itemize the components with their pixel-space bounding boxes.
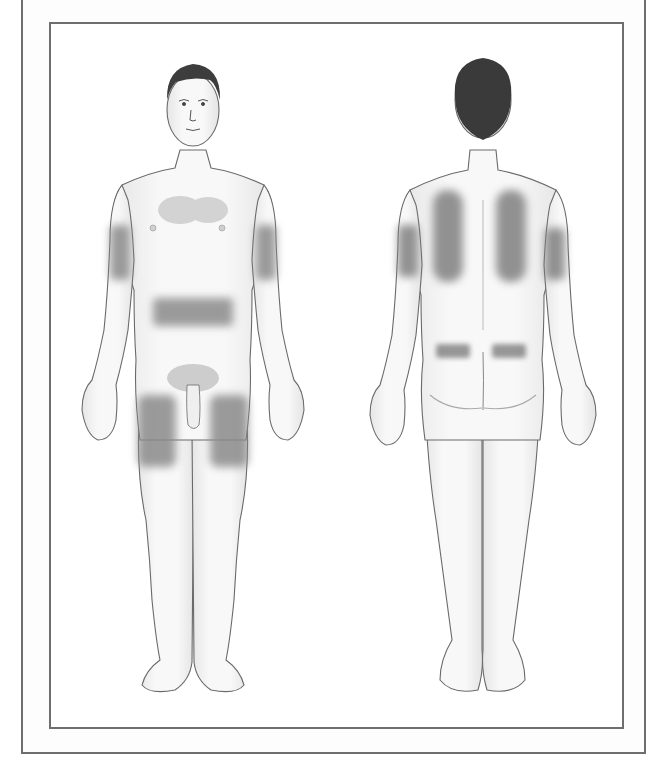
front-left-arm	[82, 185, 134, 440]
back-shade-right-buttock	[492, 344, 526, 358]
front-right-nipple	[219, 225, 225, 231]
front-shade-abdomen	[153, 298, 233, 326]
front-left-nipple	[150, 225, 156, 231]
back-shade-left-upper-back	[433, 190, 463, 282]
back-buttock-cleft	[483, 352, 484, 410]
front-chest-details	[158, 196, 228, 224]
front-head	[167, 74, 219, 146]
front-shade-right-thigh	[210, 395, 248, 467]
front-shade-right-upper-arm	[256, 225, 276, 280]
body-diagram	[0, 0, 651, 763]
back-shade-right-upper-arm	[545, 228, 565, 280]
front-genital	[187, 385, 200, 429]
front-right-arm	[252, 185, 304, 440]
back-shade-left-buttock	[436, 344, 470, 358]
back-right-leg	[483, 400, 541, 691]
front-shade-left-upper-arm	[110, 225, 130, 280]
back-shade-right-upper-back	[496, 190, 526, 282]
front-shade-left-thigh	[138, 395, 176, 467]
back-shade-left-upper-arm	[398, 225, 418, 277]
back-left-leg	[425, 400, 483, 691]
